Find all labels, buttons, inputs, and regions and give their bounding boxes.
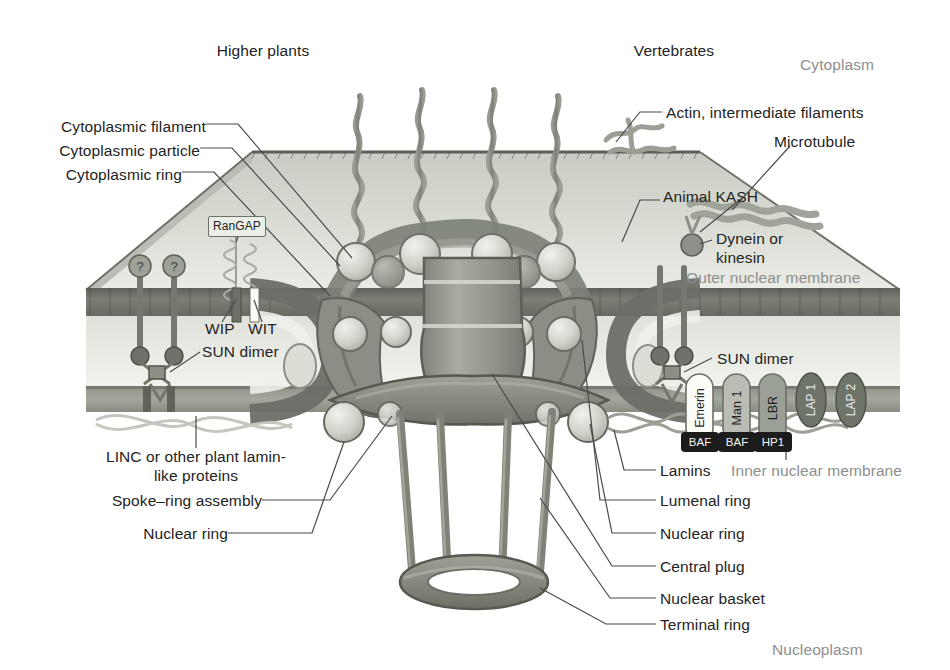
label-wip: WIP (205, 320, 235, 337)
svg-text:LBR: LBR (766, 396, 780, 420)
svg-text:BAF: BAF (726, 436, 748, 448)
protein-emerin[interactable]: Emerin (686, 374, 713, 442)
label-nuclear-basket: Nuclear basket (660, 590, 765, 607)
label-central-plug: Central plug (660, 558, 745, 575)
label-outer-nuclear-membrane: Outer nuclear membrane (686, 269, 861, 286)
label-nuclear-ring-right: Nuclear ring (660, 525, 745, 542)
label-cytoplasmic-ring: Cytoplasmic ring (0, 166, 182, 183)
svg-text:BAF: BAF (689, 436, 711, 448)
label-animal-kash: Animal KASH (663, 188, 758, 205)
label-cytoplasmic-filament: Cytoplasmic filament (0, 118, 206, 135)
label-lumenal-ring: Lumenal ring (660, 492, 751, 509)
label-sun-dimer-left: SUN dimer (202, 343, 279, 360)
label-actin-intermediate-filaments: Actin, intermediate filaments (666, 104, 864, 121)
badge-hp1[interactable]: HP1 (754, 432, 792, 452)
svg-text:LAP 1: LAP 1 (804, 383, 818, 416)
protein-lbr[interactable]: LBR (759, 374, 786, 442)
label-cytoplasmic-particle: Cytoplasmic particle (0, 142, 200, 159)
label-linc-plant-lamin: LINC or other plant lamin- like proteins (60, 448, 332, 485)
label-sun-dimer-right: SUN dimer (717, 350, 794, 367)
label-rangap: RanGAP (208, 216, 266, 237)
svg-text:Emerin: Emerin (693, 388, 707, 428)
protein-man1[interactable]: Man 1 (723, 374, 750, 442)
protein-lap2[interactable]: LAP 2 (836, 373, 866, 427)
badge-baf-2[interactable]: BAF (718, 432, 756, 452)
heading-vertebrates: Vertebrates (594, 42, 754, 59)
svg-text:LAP 2: LAP 2 (844, 383, 858, 416)
compartment-cytoplasm: Cytoplasm (800, 56, 874, 73)
compartment-nucleoplasm: Nucleoplasm (772, 641, 863, 658)
heading-higher-plants: Higher plants (168, 42, 358, 59)
label-spoke-ring-assembly: Spoke–ring assembly (0, 492, 262, 509)
label-inner-nuclear-membrane: Inner nuclear membrane (731, 462, 902, 479)
protein-lap1[interactable]: LAP 1 (796, 373, 826, 427)
label-nuclear-ring-left: Nuclear ring (0, 525, 228, 542)
label-wit: WIT (248, 320, 277, 337)
label-terminal-ring: Terminal ring (660, 616, 750, 633)
inner-membrane-proteins: Emerin Man 1 LBR LAP 1 LAP 2 BAF BAF H (0, 0, 950, 670)
badge-baf-1[interactable]: BAF (681, 432, 719, 452)
label-microtubule: Microtubule (774, 133, 855, 150)
svg-text:HP1: HP1 (762, 436, 784, 448)
label-dynein-or-kinesin: Dynein or kinesin (716, 230, 783, 267)
svg-text:Man 1: Man 1 (730, 391, 744, 426)
figure-canvas: ? ? (0, 0, 950, 670)
label-lamins: Lamins (660, 462, 711, 479)
